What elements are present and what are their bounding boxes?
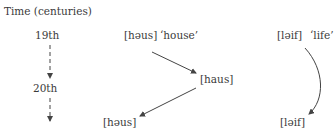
life-arrow-1-2 xyxy=(305,48,321,114)
house-arrow-1-2 xyxy=(152,52,196,73)
house-arrow-2-3 xyxy=(140,88,196,116)
arrows-layer xyxy=(0,0,335,137)
